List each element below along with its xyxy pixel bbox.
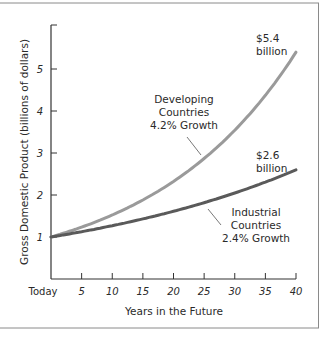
gdp-growth-chart: 12345 Today510152025303540 Gross Domesti… (0, 0, 326, 339)
x-tick-label: 10 (106, 286, 119, 297)
svg-text:Countries: Countries (159, 106, 209, 118)
x-tick-label: 40 (290, 286, 303, 297)
x-tick-label: 35 (259, 286, 272, 297)
y-tick-label: 4 (37, 106, 43, 117)
x-tick-label: Today (28, 286, 58, 297)
svg-text:Industrial: Industrial (231, 206, 280, 218)
developing-end-label: $5.4 billion (256, 32, 287, 57)
x-ticks: Today510152025303540 (28, 273, 303, 297)
y-ticks: 12345 (37, 64, 57, 243)
developing-annotation: Developing Countries 4.2% Growth (150, 93, 218, 155)
svg-text:4.2% Growth: 4.2% Growth (150, 119, 218, 131)
y-tick-label: 1 (37, 232, 43, 243)
y-tick-label: 2 (37, 190, 43, 201)
svg-text:$2.6: $2.6 (256, 149, 280, 161)
x-tick-label: 5 (78, 286, 84, 297)
x-tick-label: 15 (137, 286, 150, 297)
x-tick-label: 20 (167, 286, 180, 297)
x-tick-label: 25 (198, 286, 211, 297)
svg-text:Developing: Developing (154, 93, 213, 105)
industrial-annotation: Industrial Countries 2.4% Growth (208, 206, 290, 244)
x-tick-label: 30 (228, 286, 241, 297)
y-tick-label: 5 (37, 64, 43, 75)
svg-text:$5.4: $5.4 (256, 32, 280, 44)
svg-text:billion: billion (256, 162, 287, 174)
y-axis (51, 25, 57, 279)
industrial-leader-line (208, 209, 221, 225)
svg-text:Countries: Countries (231, 219, 281, 231)
developing-leader-line (187, 137, 201, 155)
svg-text:billion: billion (256, 45, 287, 57)
y-tick-label: 3 (37, 148, 43, 159)
industrial-end-label: $2.6 billion (256, 149, 287, 174)
svg-text:2.4% Growth: 2.4% Growth (222, 232, 290, 244)
y-axis-title: Gross Domestic Product (billions of doll… (18, 39, 30, 265)
x-axis-title: Years in the Future (124, 305, 223, 317)
